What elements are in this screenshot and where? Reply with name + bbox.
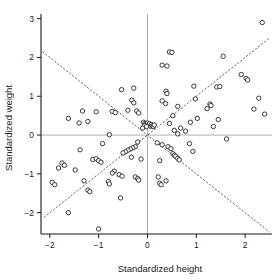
- y-tick-label: 0: [29, 130, 34, 140]
- data-point: [66, 210, 70, 214]
- data-point: [152, 123, 156, 127]
- data-point: [169, 146, 173, 150]
- data-point: [211, 124, 215, 128]
- y-tick-label: −2: [24, 208, 34, 218]
- data-point: [195, 116, 199, 120]
- data-point: [163, 101, 167, 105]
- figure-background: [0, 0, 280, 280]
- data-point: [160, 63, 164, 67]
- x-tick-label: 1: [194, 240, 199, 250]
- data-point: [136, 178, 140, 182]
- data-point: [188, 120, 192, 124]
- data-point: [155, 141, 159, 145]
- data-point: [56, 166, 60, 170]
- data-point: [73, 168, 77, 172]
- data-point: [86, 119, 90, 123]
- data-point: [252, 107, 256, 111]
- data-point: [216, 117, 220, 121]
- data-point: [140, 126, 144, 130]
- y-tick-label: 3: [29, 14, 34, 24]
- data-point: [191, 149, 195, 153]
- data-point: [77, 121, 81, 125]
- data-point: [224, 137, 228, 141]
- data-point: [139, 157, 143, 161]
- x-tick-label: −2: [45, 240, 55, 250]
- data-point: [136, 140, 140, 144]
- data-point: [171, 113, 175, 117]
- data-point: [176, 132, 180, 136]
- x-tick-label: 2: [243, 240, 248, 250]
- data-point: [165, 91, 169, 95]
- data-point: [193, 97, 197, 101]
- scatter-plot-figure: −2−1012−2−10123 Standardized height Stan…: [0, 0, 280, 280]
- y-tick-label: 1: [29, 91, 34, 101]
- data-point: [100, 141, 104, 145]
- data-point: [129, 155, 133, 159]
- data-point: [170, 50, 174, 54]
- data-point: [96, 227, 100, 231]
- data-point: [221, 54, 225, 58]
- data-point: [245, 78, 249, 82]
- data-point: [260, 20, 264, 24]
- data-point: [132, 86, 136, 90]
- data-point: [107, 132, 111, 136]
- scatter-plot-svg: −2−1012−2−10123 Standardized height Stan…: [0, 0, 280, 280]
- y-tick-label: −1: [24, 169, 34, 179]
- data-point: [167, 121, 171, 125]
- data-point: [176, 104, 180, 108]
- x-tick-label: 0: [145, 240, 150, 250]
- data-point: [192, 84, 196, 88]
- x-tick-label: −1: [94, 240, 104, 250]
- data-point: [99, 160, 103, 164]
- data-point: [218, 84, 222, 88]
- data-point: [78, 148, 82, 152]
- data-point: [177, 158, 181, 162]
- data-point: [66, 116, 70, 120]
- data-point: [119, 87, 123, 91]
- data-point: [82, 179, 86, 183]
- x-axis-label: Standardized height: [118, 263, 203, 274]
- data-point: [132, 101, 136, 105]
- data-point: [239, 72, 243, 76]
- data-point: [159, 183, 163, 187]
- data-point: [94, 110, 98, 114]
- data-point: [157, 158, 161, 162]
- data-point: [107, 182, 111, 186]
- y-axis-label: Standardized weight: [3, 85, 14, 171]
- data-point: [121, 151, 125, 155]
- data-point: [136, 111, 140, 115]
- data-point: [178, 126, 182, 130]
- data-point: [160, 143, 164, 147]
- data-point: [183, 129, 187, 133]
- data-point: [262, 112, 266, 116]
- data-point: [126, 108, 130, 112]
- data-point: [257, 96, 261, 100]
- data-point: [52, 183, 56, 187]
- data-point: [164, 179, 168, 183]
- y-tick-label: 2: [29, 52, 34, 62]
- data-point: [110, 171, 114, 175]
- data-point: [172, 128, 176, 132]
- data-point: [120, 174, 124, 178]
- data-point: [209, 103, 213, 107]
- data-point: [113, 110, 117, 114]
- data-point: [88, 190, 92, 194]
- data-point: [156, 175, 160, 179]
- data-point: [187, 141, 191, 145]
- data-point: [80, 109, 84, 113]
- data-point: [165, 64, 169, 68]
- data-point: [205, 106, 209, 110]
- data-point: [118, 196, 122, 200]
- data-point: [62, 163, 66, 167]
